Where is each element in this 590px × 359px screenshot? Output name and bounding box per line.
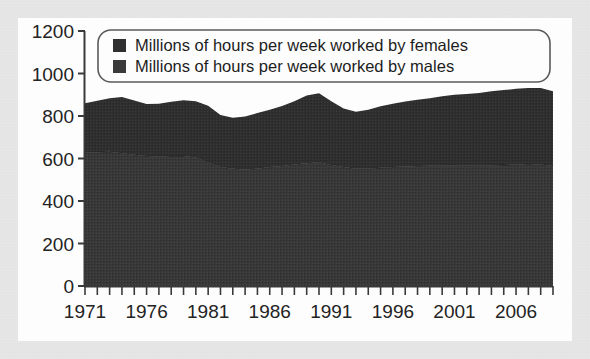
x-tick-label: 2006 [495,301,537,322]
x-tick-label: 1976 [125,301,167,322]
y-tick-label: 0 [63,276,74,297]
legend-swatch-females [113,39,126,52]
x-tick-label: 1981 [187,301,229,322]
chart-legend[interactable]: Millions of hours per week worked by fem… [98,30,550,82]
area-chart: 020040060080010001200 197119761981198619… [18,18,572,341]
x-tick-label: 1996 [372,301,414,322]
x-tick-label: 1986 [249,301,291,322]
y-axis-tick-labels: 020040060080010001200 [32,21,74,297]
y-tick-label: 200 [42,234,74,255]
y-tick-label: 800 [42,106,74,127]
x-tick-label: 2001 [433,301,475,322]
legend-label-males: Millions of hours per week worked by mal… [135,57,454,75]
y-tick-label: 1200 [32,21,74,42]
y-tick-label: 1000 [32,64,74,85]
legend-label-females: Millions of hours per week worked by fem… [135,36,468,54]
stacked-area-series [85,88,553,286]
chart-panel: 020040060080010001200 197119761981198619… [18,18,572,341]
legend-swatch-males [113,60,126,73]
area-series-males [85,152,553,286]
x-axis-tick-labels: 19711976198119861991199620012006 [64,301,537,322]
y-tick-label: 600 [42,149,74,170]
x-tick-label: 1971 [64,301,106,322]
x-tick-label: 1991 [310,301,352,322]
y-tick-label: 400 [42,191,74,212]
